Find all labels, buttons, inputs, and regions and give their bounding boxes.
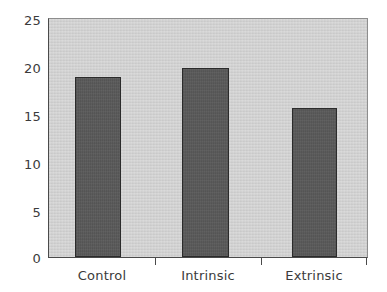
plot-area bbox=[48, 18, 368, 258]
x-axis-label-intrinsic: Intrinsic bbox=[157, 268, 259, 283]
x-axis-label-control: Control bbox=[52, 268, 152, 283]
x-axis-label-extrinsic: Extrinsic bbox=[263, 268, 365, 283]
y-axis-tick-label-0: 0 bbox=[11, 252, 41, 265]
x-axis-tick-mark-3 bbox=[366, 258, 367, 265]
bar-chart-figure: 25 20 15 10 5 0 Control Intrinsic Extrin… bbox=[0, 0, 387, 292]
bar-control bbox=[75, 77, 121, 257]
x-axis-tick-mark-2 bbox=[261, 258, 262, 265]
bar-intrinsic bbox=[182, 68, 229, 257]
y-axis-tick-label-25: 25 bbox=[11, 14, 41, 27]
y-axis-tick-label-5: 5 bbox=[11, 206, 41, 219]
y-axis-tick-label-15: 15 bbox=[11, 110, 41, 123]
y-axis-tick-label-10: 10 bbox=[11, 158, 41, 171]
bar-extrinsic bbox=[292, 108, 337, 257]
y-axis-tick-label-20: 20 bbox=[11, 62, 41, 75]
x-axis-tick-mark-1 bbox=[155, 258, 156, 265]
